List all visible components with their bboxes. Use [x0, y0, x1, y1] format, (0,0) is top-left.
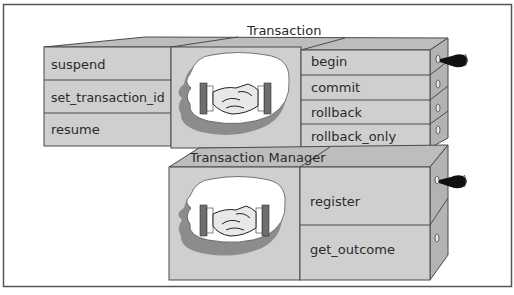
op-commit: commit — [311, 80, 360, 95]
transaction-title: Transaction — [247, 23, 321, 38]
op-suspend: suspend — [51, 57, 106, 72]
op-resume: resume — [51, 122, 100, 137]
transaction-diagram: Transaction Transaction Manager suspend … — [0, 0, 514, 295]
op-get-outcome: get_outcome — [310, 242, 395, 257]
diagram-canvas — [0, 0, 514, 295]
op-begin: begin — [311, 54, 347, 69]
op-rollback-only: rollback_only — [311, 129, 396, 144]
op-rollback: rollback — [311, 105, 362, 120]
transaction-manager-box — [169, 145, 467, 280]
op-register: register — [310, 194, 360, 209]
transaction-manager-title: Transaction Manager — [190, 150, 325, 165]
op-set-transaction-id: set_transaction_id — [51, 90, 165, 105]
